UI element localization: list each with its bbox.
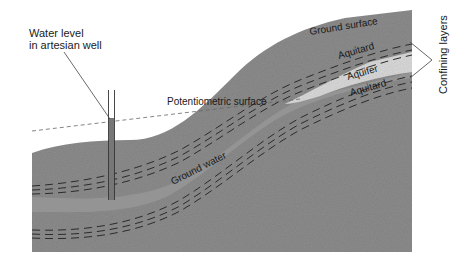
artesian-well-diagram: Water level in artesian well Potentiomet…: [0, 0, 465, 266]
potentiometric-surface-label: Potentiometric surface: [167, 96, 267, 107]
well-label-leader: [64, 52, 110, 119]
confining-layers-bracket: [410, 42, 432, 78]
artesian-well: [109, 90, 115, 200]
well-label-line2: in artesian well: [29, 39, 102, 51]
well-label-line1: Water level: [29, 27, 84, 39]
confining-layers-label: Confining layers: [437, 15, 449, 94]
